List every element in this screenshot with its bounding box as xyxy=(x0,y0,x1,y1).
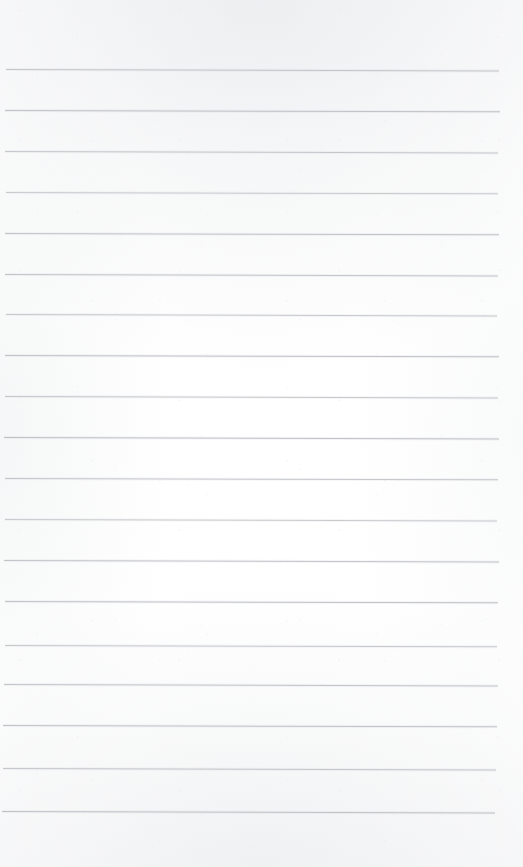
rule-line xyxy=(5,151,498,153)
rule-line xyxy=(5,355,499,357)
rule-line xyxy=(2,811,495,813)
rule-line xyxy=(5,233,499,235)
rule-line xyxy=(6,69,499,71)
rule-line xyxy=(5,396,498,398)
rule-line xyxy=(4,437,499,439)
rule-line xyxy=(5,601,498,603)
rule-line xyxy=(4,684,498,686)
rule-line xyxy=(6,314,497,316)
ruled-lines-group xyxy=(0,0,523,867)
rule-line xyxy=(3,768,496,770)
rule-line xyxy=(4,560,499,562)
rule-line xyxy=(5,478,498,480)
rule-line xyxy=(3,725,497,727)
rule-line xyxy=(5,645,497,647)
rule-line xyxy=(5,110,500,112)
rule-line xyxy=(5,274,498,276)
rule-line xyxy=(5,519,497,521)
scanned-notebook-page xyxy=(0,0,523,867)
rule-line xyxy=(6,192,498,194)
